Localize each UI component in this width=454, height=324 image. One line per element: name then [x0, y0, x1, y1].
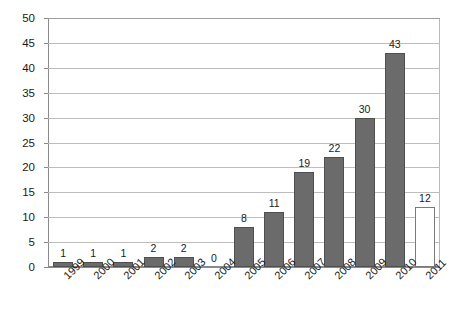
x-label-slot-2007: 2007 — [289, 269, 319, 324]
x-label-slot-2001: 2001 — [108, 269, 138, 324]
bars-layer: 1112208111922304312 — [48, 18, 440, 267]
bar-value-label-2004: 0 — [211, 253, 217, 264]
y-tick-label-5: 5 — [29, 236, 35, 248]
bar-2010[interactable] — [385, 53, 405, 267]
bar-value-label-2008: 22 — [329, 143, 341, 154]
bar-2006[interactable] — [264, 212, 284, 267]
x-label-slot-2011: 2011 — [410, 269, 440, 324]
bar-slot-2010: 43 — [380, 18, 410, 267]
bar-slot-2001: 1 — [108, 18, 138, 267]
x-label-slot-2009: 2009 — [350, 269, 380, 324]
x-label-slot-2004: 2004 — [199, 269, 229, 324]
bar-slot-2006: 11 — [259, 18, 289, 267]
bar-slot-2004: 0 — [199, 18, 229, 267]
bar-slot-2008: 22 — [319, 18, 349, 267]
bar-value-label-2000: 1 — [90, 248, 96, 259]
y-axis-labels: 05101520253035404550 — [0, 0, 44, 324]
x-label-slot-2002: 2002 — [138, 269, 168, 324]
y-tick-label-15: 15 — [22, 186, 35, 198]
x-label-slot-2003: 2003 — [169, 269, 199, 324]
y-tick-label-20: 20 — [22, 161, 35, 173]
bar-2011[interactable] — [415, 207, 435, 267]
bar-value-label-1999: 1 — [60, 248, 66, 259]
y-tick-label-45: 45 — [22, 37, 35, 49]
x-label-slot-2006: 2006 — [259, 269, 289, 324]
y-tick-label-35: 35 — [22, 87, 35, 99]
x-label-slot-2010: 2010 — [380, 269, 410, 324]
bar-slot-2003: 2 — [169, 18, 199, 267]
y-tick-label-50: 50 — [22, 12, 35, 24]
bar-value-label-2006: 11 — [269, 198, 280, 209]
bar-value-label-2002: 2 — [151, 243, 157, 254]
x-axis-labels: 1999200020012002200320042005200620072008… — [48, 269, 440, 324]
y-tick-mark-0 — [44, 267, 48, 268]
bar-slot-2000: 1 — [78, 18, 108, 267]
bar-value-label-2005: 8 — [241, 213, 247, 224]
y-tick-label-10: 10 — [22, 211, 35, 223]
bar-2005[interactable] — [234, 227, 254, 267]
bar-slot-2011: 12 — [410, 18, 440, 267]
bar-value-label-2007: 19 — [298, 158, 310, 169]
bar-slot-2002: 2 — [138, 18, 168, 267]
y-tick-label-25: 25 — [22, 137, 35, 149]
bar-chart: 05101520253035404550 1112208111922304312… — [0, 0, 454, 324]
bar-slot-2009: 30 — [350, 18, 380, 267]
bar-slot-2007: 19 — [289, 18, 319, 267]
y-tick-label-30: 30 — [22, 112, 35, 124]
bar-value-label-2010: 43 — [389, 39, 401, 50]
bar-2008[interactable] — [324, 157, 344, 267]
x-label-slot-2000: 2000 — [78, 269, 108, 324]
bar-value-label-2009: 30 — [359, 104, 371, 115]
x-label-slot-1999: 1999 — [48, 269, 78, 324]
bar-value-label-2011: 12 — [419, 193, 431, 204]
bar-value-label-2003: 2 — [181, 243, 187, 254]
x-label-slot-2005: 2005 — [229, 269, 259, 324]
bar-2007[interactable] — [294, 172, 314, 267]
bar-2009[interactable] — [355, 118, 375, 267]
bar-slot-1999: 1 — [48, 18, 78, 267]
y-tick-label-40: 40 — [22, 62, 35, 74]
x-label-slot-2008: 2008 — [319, 269, 349, 324]
bar-slot-2005: 8 — [229, 18, 259, 267]
bar-value-label-2001: 1 — [120, 248, 126, 259]
y-tick-label-0: 0 — [29, 261, 35, 273]
